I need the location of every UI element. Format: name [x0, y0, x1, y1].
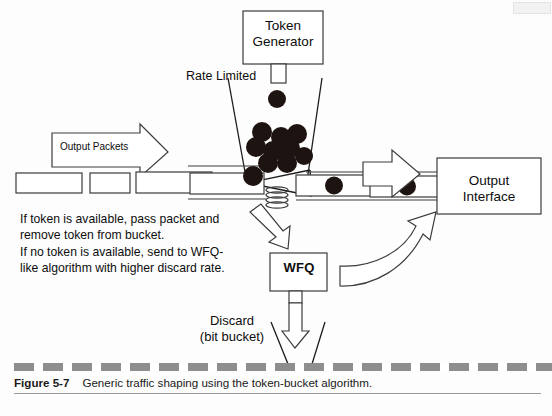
output-packets-label: Output Packets	[60, 141, 128, 153]
wfq-label: WFQ	[272, 260, 326, 275]
token-generator-label: Token Generator	[244, 18, 322, 50]
caption-dashed-rule	[14, 363, 552, 371]
figure-caption-text: Generic traffic shaping using the token-…	[82, 376, 372, 389]
wfq-chute	[289, 291, 302, 303]
token-chute	[271, 64, 286, 83]
figure-canvas: .s{fill:none;stroke:#1c1c1c;stroke-width…	[0, 0, 552, 416]
discard-label: Discard (bit bucket)	[186, 313, 278, 345]
figure-caption: Figure 5-7Generic traffic shaping using …	[14, 376, 544, 389]
output-interface-label: Output Interface	[446, 173, 532, 205]
rate-limited-label: Rate Limited	[186, 69, 256, 84]
discard-arrow	[282, 303, 309, 348]
caption-bottom-rule	[14, 393, 541, 394]
bucket-right-wall	[307, 78, 322, 181]
falling-token	[268, 90, 286, 108]
wfq-return-arrow	[340, 212, 436, 286]
diagram-vector-layer: .s{fill:none;stroke:#1c1c1c;stroke-width…	[0, 0, 552, 416]
token-rule-text: If token is available, pass packet and r…	[20, 211, 268, 277]
packet-queue-left	[16, 172, 264, 194]
rate-limited-leader	[228, 78, 247, 183]
figure-number: Figure 5-7	[14, 376, 69, 389]
